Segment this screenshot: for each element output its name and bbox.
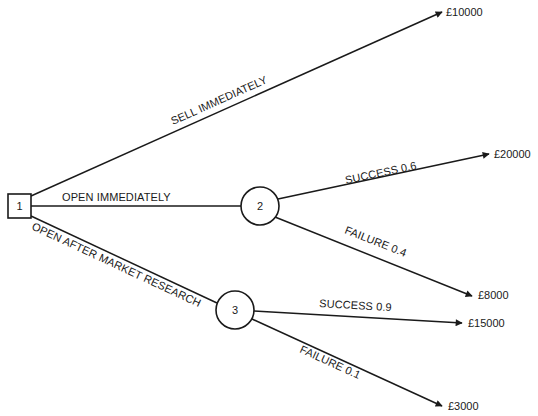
label-open-failure: FAILURE 0.4 [343, 224, 408, 259]
outcome-research-failure: £3000 [448, 400, 479, 412]
label-open-success: SUCCESS 0.6 [344, 159, 418, 186]
label-open-immediately: OPEN IMMEDIATELY [62, 191, 171, 203]
node-2-label: 2 [257, 200, 263, 212]
edge-open-failure [275, 217, 472, 296]
decision-tree-diagram: 1 2 3 SELL IMMEDIATELY OPEN IMMEDIATELY … [0, 0, 538, 416]
outcome-open-failure: £8000 [478, 289, 509, 301]
edge-research-success [254, 311, 462, 323]
label-sell-immediately: SELL IMMEDIATELY [169, 73, 269, 127]
label-research-failure: FAILURE 0.1 [298, 343, 362, 381]
edge-open-after-research [31, 216, 217, 303]
decision-node-1: 1 [8, 194, 31, 218]
node-1-label: 1 [16, 200, 22, 212]
node-3-label: 3 [232, 304, 238, 316]
label-research-success: SUCCESS 0.9 [319, 297, 392, 313]
outcome-research-success: £15000 [468, 317, 505, 329]
outcome-sell: £10000 [446, 6, 483, 18]
chance-node-2: 2 [241, 187, 279, 225]
outcome-open-success: £20000 [494, 148, 531, 160]
label-open-after-research: OPEN AFTER MARKET RESEARCH [30, 220, 203, 309]
chance-node-3: 3 [216, 291, 254, 329]
